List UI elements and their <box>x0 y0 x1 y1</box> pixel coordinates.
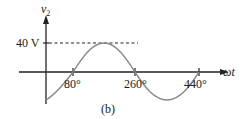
amplitude-label: 40 V <box>16 36 40 50</box>
figure-label: (b) <box>101 102 115 116</box>
diagram: v2 40 V 80° 260° 440° ωt (b) <box>0 0 243 119</box>
y-axis-label: v2 <box>41 2 50 18</box>
sine-waveform-plot: v2 40 V 80° 260° 440° ωt (b) <box>0 0 243 119</box>
x-axis-label: ωt <box>223 65 235 79</box>
tick-label-260: 260° <box>124 77 147 91</box>
tick-label-440: 440° <box>184 77 207 91</box>
tick-label-80: 80° <box>64 77 81 91</box>
